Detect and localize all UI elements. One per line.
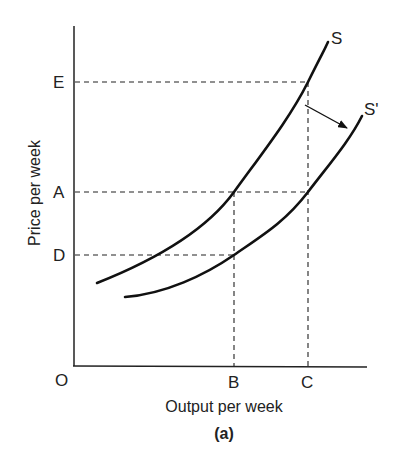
tick-label-E: E bbox=[53, 73, 64, 92]
reference-lines bbox=[75, 82, 308, 366]
supply-curve-S-prime bbox=[125, 116, 362, 297]
figure-caption: (a) bbox=[214, 425, 234, 442]
supply-shift-diagram: E A D O B C S S' Output per week Price p… bbox=[0, 0, 410, 468]
shift-arrow-icon bbox=[305, 105, 347, 128]
curve-label-S-prime: S' bbox=[364, 100, 379, 119]
tick-label-A: A bbox=[53, 183, 65, 202]
tick-label-B: B bbox=[228, 373, 239, 392]
x-axis bbox=[73, 366, 367, 367]
tick-label-D: D bbox=[53, 246, 65, 265]
curve-label-S: S bbox=[331, 29, 342, 48]
origin-label: O bbox=[55, 371, 68, 390]
tick-label-C: C bbox=[301, 373, 313, 392]
supply-curve-S bbox=[97, 42, 328, 283]
x-axis-title: Output per week bbox=[165, 398, 283, 415]
y-axis-title: Price per week bbox=[26, 139, 43, 246]
